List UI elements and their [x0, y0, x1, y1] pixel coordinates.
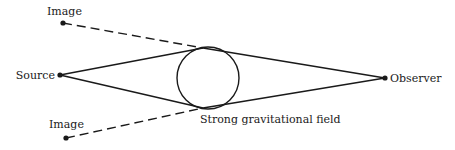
lens-label: Strong gravitational field — [200, 113, 341, 126]
ray-top-observer — [203, 48, 385, 78]
image-top-label: Image — [47, 5, 82, 18]
diagram-svg: Source Observer Image Image Strong gravi… — [0, 0, 455, 150]
apparent-ray-top — [63, 23, 203, 48]
observer-label: Observer — [390, 72, 442, 85]
image-bottom-dot — [63, 135, 68, 140]
apparent-ray-bottom — [66, 108, 203, 138]
observer-dot — [382, 75, 387, 80]
image-bottom-label: Image — [49, 118, 84, 131]
source-dot — [57, 72, 62, 77]
lensing-diagram: Source Observer Image Image Strong gravi… — [0, 0, 455, 150]
ray-bottom-observer — [203, 78, 385, 108]
lens-circle — [177, 47, 239, 109]
source-label: Source — [16, 69, 55, 82]
image-top-dot — [60, 20, 65, 25]
ray-source-bottom — [60, 75, 203, 108]
